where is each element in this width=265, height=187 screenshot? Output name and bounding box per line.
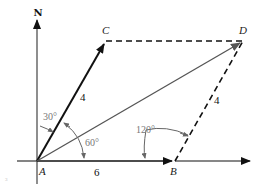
angle-label-60: 60° xyxy=(85,137,99,148)
magnitude-BD: 4 xyxy=(214,94,220,106)
stray-mark: 3 xyxy=(5,177,8,182)
point-label-A: A xyxy=(38,165,46,177)
resultant-AD xyxy=(37,43,240,161)
point-label-B: B xyxy=(170,165,177,177)
point-label-C: C xyxy=(102,24,110,36)
point-label-D: D xyxy=(238,24,247,36)
north-label: N xyxy=(33,7,42,18)
parallelogram-vector-diagram: N A B C D 4 6 4 30° 60° 120° 3 xyxy=(0,0,265,187)
angle-arc-60-start xyxy=(64,123,70,127)
angle-label-30: 30° xyxy=(43,111,57,122)
magnitude-AB: 6 xyxy=(94,166,100,178)
angle-label-120: 120° xyxy=(136,124,155,135)
dashed-BD xyxy=(175,41,243,161)
angle-arc-60 xyxy=(65,124,84,158)
magnitude-AC: 4 xyxy=(80,91,86,103)
angle-arrow-30 xyxy=(40,126,53,132)
